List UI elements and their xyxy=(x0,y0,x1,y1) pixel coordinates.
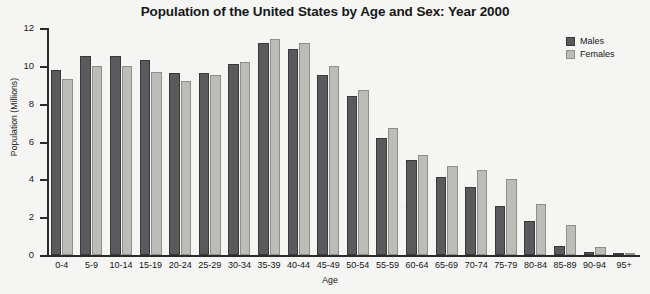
bar-males[interactable] xyxy=(347,96,358,255)
bar-females[interactable] xyxy=(566,225,577,255)
x-axis-tick-label: 10-14 xyxy=(106,260,136,270)
chart-container: Population of the United States by Age a… xyxy=(0,0,650,294)
bar-males[interactable] xyxy=(406,160,417,255)
bar-females[interactable] xyxy=(122,66,133,255)
legend-swatch-icon xyxy=(566,50,575,59)
bar-group xyxy=(258,28,280,255)
bar-females[interactable] xyxy=(418,155,429,255)
chart-title: Population of the United States by Age a… xyxy=(0,4,650,19)
x-axis-tick-label: 55-59 xyxy=(373,260,403,270)
bar-males[interactable] xyxy=(584,252,595,255)
bar-group xyxy=(376,28,398,255)
x-axis-tick-label: 60-64 xyxy=(402,260,432,270)
bar-females[interactable] xyxy=(506,179,517,255)
bar-females[interactable] xyxy=(477,170,488,255)
bar-males[interactable] xyxy=(495,206,506,255)
bar-females[interactable] xyxy=(595,247,606,255)
bar-females[interactable] xyxy=(62,79,73,255)
bar-males[interactable] xyxy=(199,73,210,255)
legend-swatch-icon xyxy=(566,37,575,46)
x-axis-tick-label: 65-69 xyxy=(432,260,462,270)
y-axis-tick-label: 2 xyxy=(0,211,34,222)
bar-males[interactable] xyxy=(258,43,269,255)
legend-item[interactable]: Males xyxy=(566,36,615,46)
x-axis-tick-label: 5-9 xyxy=(77,260,107,270)
bar-females[interactable] xyxy=(210,75,221,255)
x-axis-tick-label: 95+ xyxy=(609,260,639,270)
legend-item[interactable]: Females xyxy=(566,49,615,59)
bar-males[interactable] xyxy=(554,246,565,255)
x-axis-tick-label: 85-89 xyxy=(550,260,580,270)
bar-group xyxy=(317,28,339,255)
chart-legend: MalesFemales xyxy=(566,36,615,62)
bar-males[interactable] xyxy=(110,56,121,255)
bar-males[interactable] xyxy=(376,138,387,255)
bar-males[interactable] xyxy=(80,56,91,255)
bar-females[interactable] xyxy=(536,204,547,255)
bar-males[interactable] xyxy=(613,253,624,255)
plot-area xyxy=(47,28,639,255)
bar-group xyxy=(613,28,635,255)
x-axis-tick-label: 15-19 xyxy=(136,260,166,270)
bar-females[interactable] xyxy=(240,62,251,255)
y-axis-title: Population (Millions) xyxy=(9,57,19,177)
bar-group xyxy=(199,28,221,255)
y-axis-tick-label: 12 xyxy=(0,22,34,33)
bar-females[interactable] xyxy=(181,81,192,255)
bar-group xyxy=(584,28,606,255)
y-axis-tick-label: 0 xyxy=(0,249,34,260)
bar-group xyxy=(436,28,458,255)
bar-males[interactable] xyxy=(436,177,447,255)
bar-males[interactable] xyxy=(228,64,239,255)
x-axis-tick-label: 25-29 xyxy=(195,260,225,270)
bar-group xyxy=(228,28,250,255)
bar-females[interactable] xyxy=(329,66,340,255)
bar-group xyxy=(110,28,132,255)
bar-females[interactable] xyxy=(151,72,162,255)
x-axis-tick-label: 20-24 xyxy=(165,260,195,270)
x-axis-tick-label: 70-74 xyxy=(461,260,491,270)
x-axis-line xyxy=(47,255,640,257)
bar-females[interactable] xyxy=(388,128,399,255)
bar-males[interactable] xyxy=(288,49,299,255)
bar-males[interactable] xyxy=(524,221,535,255)
bar-group xyxy=(465,28,487,255)
bar-group xyxy=(80,28,102,255)
bar-males[interactable] xyxy=(169,73,180,255)
x-axis-tick-label: 90-94 xyxy=(580,260,610,270)
bar-females[interactable] xyxy=(270,39,281,255)
x-axis-tick-label: 0-4 xyxy=(47,260,77,270)
bar-group xyxy=(347,28,369,255)
bar-group xyxy=(140,28,162,255)
bar-females[interactable] xyxy=(92,66,103,255)
legend-label: Females xyxy=(580,49,615,59)
bar-females[interactable] xyxy=(447,166,458,255)
bar-males[interactable] xyxy=(465,187,476,255)
bar-females[interactable] xyxy=(358,90,369,255)
bar-females[interactable] xyxy=(625,253,636,255)
x-axis-tick-label: 80-84 xyxy=(521,260,551,270)
x-axis-tick-label: 45-49 xyxy=(313,260,343,270)
bar-males[interactable] xyxy=(140,60,151,255)
x-axis-tick-label: 40-44 xyxy=(284,260,314,270)
bar-females[interactable] xyxy=(299,43,310,255)
x-axis-tick-label: 75-79 xyxy=(491,260,521,270)
x-axis-tick-label: 50-54 xyxy=(343,260,373,270)
y-axis-tick xyxy=(40,255,49,257)
bar-males[interactable] xyxy=(51,70,62,255)
bar-group xyxy=(524,28,546,255)
x-axis-tick-label: 35-39 xyxy=(254,260,284,270)
x-axis-title: Age xyxy=(300,275,360,285)
legend-label: Males xyxy=(580,36,604,46)
bar-group xyxy=(169,28,191,255)
bar-group xyxy=(51,28,73,255)
x-axis-tick-label: 30-34 xyxy=(225,260,255,270)
bar-group xyxy=(288,28,310,255)
bar-males[interactable] xyxy=(317,75,328,255)
bar-group xyxy=(495,28,517,255)
bar-group xyxy=(554,28,576,255)
bar-group xyxy=(406,28,428,255)
